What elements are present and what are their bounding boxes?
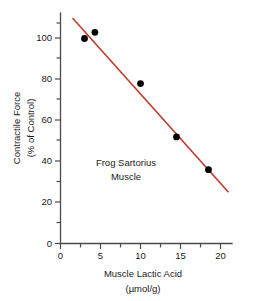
chart-figure: 0 20 40 60 80 100 0 5 10 15 20 [0, 0, 256, 301]
x-axis-tick-labels: 0 5 10 15 20 [58, 250, 226, 261]
sample-label: Frog Sartorius Muscle [96, 157, 156, 182]
sample-label-line2: Muscle [111, 171, 141, 182]
y-tick-label-20: 20 [41, 196, 52, 207]
y-tick-label-60: 60 [41, 114, 52, 125]
y-tick-label-80: 80 [41, 73, 52, 84]
data-point [205, 166, 212, 173]
data-point [173, 134, 180, 141]
x-axis-units: (µmol/g) [125, 283, 160, 294]
x-tick-label-10: 10 [135, 250, 146, 261]
x-tick-label-15: 15 [175, 250, 186, 261]
scatter-plot: 0 20 40 60 80 100 0 5 10 15 20 [0, 0, 256, 301]
data-point [81, 35, 88, 42]
x-tick-label-20: 20 [215, 250, 226, 261]
axes-group [60, 13, 232, 244]
y-tick-label-40: 40 [41, 155, 52, 166]
y-tick-label-100: 100 [36, 32, 52, 43]
x-axis-title: Muscle Lactic Acid [104, 268, 182, 279]
y-axis-title: Contractile Force [11, 92, 22, 164]
y-tick-label-0: 0 [47, 238, 52, 249]
x-axis-ticks [61, 244, 221, 250]
y-axis-tick-labels: 0 20 40 60 80 100 [36, 32, 52, 249]
data-point [92, 29, 99, 36]
y-axis-units: (% of Control) [25, 99, 36, 158]
sample-label-line1: Frog Sartorius [96, 157, 156, 168]
y-axis-ticks [55, 23, 61, 244]
data-point [137, 80, 144, 87]
x-tick-label-5: 5 [98, 250, 103, 261]
x-tick-label-0: 0 [58, 250, 63, 261]
